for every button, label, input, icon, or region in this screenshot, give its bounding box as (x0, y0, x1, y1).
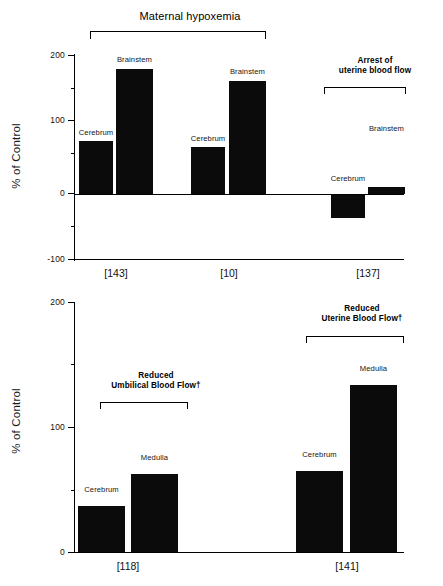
group-bracket-arrest-uterine-blood-flow (324, 87, 406, 94)
y-axis-title-bottom: % of Control (10, 381, 22, 461)
bar-brainstem-137 (368, 187, 405, 194)
group-bracket-reduced-uterine-blood-flow (306, 336, 404, 343)
chart-panel-top: % of Control 200 100 0 -100 Maternal hyp… (0, 0, 443, 290)
y-ticklabel-100-top: 100 (32, 115, 65, 125)
x-label-143: [143] (86, 267, 146, 279)
y-ticklabel-100-bottom: 100 (32, 422, 65, 432)
bar-medulla-141 (350, 385, 397, 552)
x-axis-line-top (74, 259, 404, 260)
y-ticklabel-200-bottom: 200 (32, 297, 65, 307)
bar-label-cerebrum-143: Cerebrum (74, 128, 118, 137)
group-title-maternal-hypoxemia: Maternal hypoxemia (90, 10, 290, 23)
x-label-10: [10] (199, 267, 259, 279)
y-axis-line-top (74, 54, 75, 261)
bar-cerebrum-137 (331, 195, 365, 218)
bar-label-cerebrum-10: Cerebrum (186, 134, 230, 143)
bar-label-cerebrum-137: Cerebrum (326, 174, 370, 183)
y-tick-50-top (71, 153, 75, 154)
y-tick-200-top (68, 55, 75, 56)
bar-label-cerebrum-118: Cerebrum (76, 485, 127, 494)
y-tick-50-bottom (71, 490, 75, 491)
bar-label-cerebrum-141: Cerebrum (294, 450, 345, 459)
x-label-137: [137] (338, 267, 398, 279)
y-ticklabel-m100-top: -100 (28, 254, 65, 264)
bar-label-medulla-141: Medulla (348, 364, 399, 373)
y-tick-200-bottom (68, 302, 75, 303)
y-ticklabel-0-top: 0 (32, 188, 65, 198)
bar-cerebrum-141 (296, 471, 343, 552)
group-bracket-reduced-umbilical-blood-flow (100, 402, 188, 409)
x-label-118: [118] (98, 560, 158, 572)
x-label-141: [141] (317, 560, 377, 572)
bar-cerebrum-118 (78, 506, 125, 552)
bar-label-medulla-118: Medulla (129, 453, 180, 462)
group-title-reduced-umbilical-blood-flow: Reduced Umbilical Blood Flow† (90, 371, 222, 391)
y-axis-title-top: % of Control (10, 116, 22, 196)
bar-brainstem-10 (229, 81, 266, 194)
bar-medulla-118 (131, 474, 178, 552)
bar-label-brainstem-137: Brainstem (362, 124, 411, 133)
y-tick-100-top (68, 120, 75, 121)
chart-panel-bottom: % of Control 200 100 0 Reduced Umbilical… (0, 290, 443, 586)
group-title-arrest-uterine-blood-flow: Arrest of uterine blood flow (316, 56, 434, 76)
y-tick-150-top (71, 88, 75, 89)
y-tick-100-bottom (68, 427, 75, 428)
y-ticklabel-0-bottom: 0 (32, 547, 65, 557)
x-axis-line-bottom (74, 552, 404, 553)
group-bracket-maternal-hypoxemia (90, 31, 266, 39)
y-ticklabel-200-top: 200 (32, 50, 65, 60)
bar-cerebrum-143 (79, 141, 113, 194)
y-tick-m50-top (71, 226, 75, 227)
group-title-reduced-uterine-blood-flow: Reduced Uterine Blood Flow† (296, 304, 428, 324)
bar-brainstem-143 (116, 69, 153, 194)
figure-root: % of Control 200 100 0 -100 Maternal hyp… (0, 0, 443, 586)
bar-cerebrum-10 (191, 147, 225, 194)
bar-label-brainstem-10: Brainstem (223, 67, 272, 76)
y-tick-150-bottom (71, 364, 75, 365)
bar-label-brainstem-143: Brainstem (110, 55, 159, 64)
